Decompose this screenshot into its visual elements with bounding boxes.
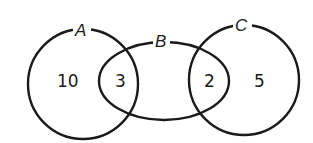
region-b-and-c: 2 <box>204 71 215 91</box>
set-a-label: A <box>74 21 86 40</box>
set-b-label: B <box>155 32 166 51</box>
region-a-only: 10 <box>57 71 79 91</box>
region-a-and-b: 3 <box>115 71 126 91</box>
region-c-only: 5 <box>254 71 265 91</box>
set-c-label: C <box>235 16 248 35</box>
venn-diagram: A B C 10 3 2 5 <box>0 0 313 143</box>
